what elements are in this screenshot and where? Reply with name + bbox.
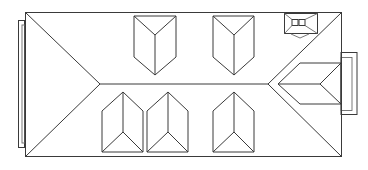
dormer-top-1 — [134, 16, 176, 75]
roof-plan-diagram — [0, 0, 368, 170]
side-dormer — [278, 63, 341, 104]
dormer-bottom-2 — [147, 92, 188, 152]
left-annex — [19, 21, 26, 148]
dormer-bottom-1 — [102, 92, 143, 152]
chimney — [285, 14, 318, 39]
dormer-top-2 — [213, 16, 254, 75]
right-annex — [341, 53, 357, 115]
dormer-bottom-3 — [213, 92, 254, 152]
